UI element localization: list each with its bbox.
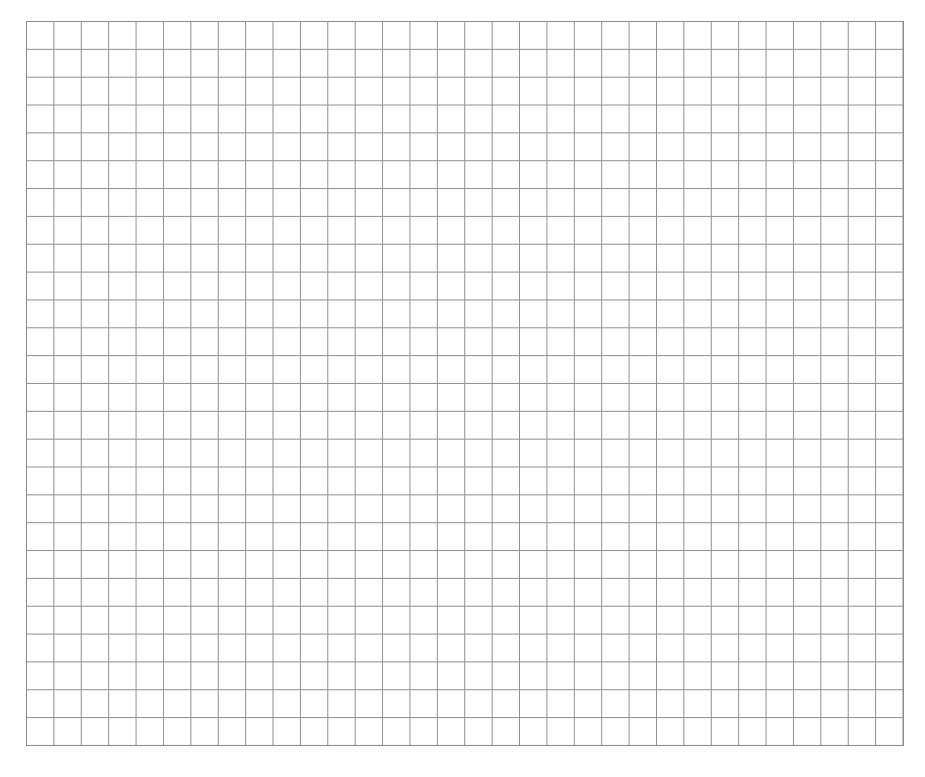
grid-paper bbox=[26, 21, 903, 745]
page-canvas bbox=[0, 0, 925, 777]
